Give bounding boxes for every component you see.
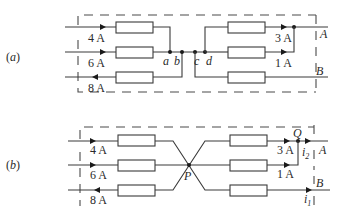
current-label: 6 A — [88, 56, 105, 70]
arrow-right-icon — [281, 49, 287, 55]
resistor — [228, 72, 265, 83]
current-label: 3 A — [275, 31, 292, 45]
resistor — [118, 160, 155, 171]
diagram-a-label: (a) — [6, 50, 20, 64]
diagram-a: (a) — [6, 15, 328, 95]
current-label: 6 A — [90, 168, 107, 182]
diagram-b-label: (b) — [6, 158, 20, 172]
resistor — [230, 135, 267, 146]
terminal-label-A: A — [319, 27, 328, 41]
current-label: 1 A — [275, 56, 292, 70]
arrow-right-icon — [281, 24, 287, 30]
resistor — [230, 160, 267, 171]
terminal-label-B: B — [316, 64, 324, 78]
boundary-top — [80, 127, 314, 139]
node-label-b: b — [174, 54, 180, 68]
current-label: 1 A — [277, 167, 294, 181]
current-label-i2: i2 — [302, 145, 309, 161]
current-label-i1: i1 — [304, 192, 311, 206]
resistor — [116, 22, 153, 33]
resistor — [228, 47, 265, 58]
arrow-right-icon — [100, 24, 106, 30]
diagram-b: (b) 4 A 6 A 8 A 3 A 1 — [6, 125, 330, 206]
resistor — [228, 22, 265, 33]
boundary-top — [78, 15, 316, 25]
terminal-label-A: A — [318, 143, 327, 157]
arrow-left-icon — [92, 74, 98, 80]
arrow-right-icon — [305, 138, 311, 144]
terminal-label-B: B — [316, 176, 324, 190]
node-b — [180, 50, 184, 54]
resistor — [118, 135, 155, 146]
node-label-a: a — [163, 54, 169, 68]
current-label: 3 A — [277, 143, 294, 157]
node-label-c: c — [194, 54, 200, 68]
node-label-Q: Q — [293, 126, 302, 140]
current-label: 8 A — [88, 81, 105, 95]
resistor — [116, 47, 153, 58]
node-P — [187, 163, 191, 167]
node-label-P: P — [183, 169, 192, 183]
current-label: 8 A — [90, 193, 107, 206]
node-label-d: d — [206, 54, 213, 68]
arrow-right-icon — [100, 49, 106, 55]
circuit-diagram: (a) — [0, 0, 340, 206]
resistor — [230, 185, 267, 196]
current-label: 4 A — [90, 143, 107, 157]
current-label: 4 A — [88, 31, 105, 45]
resistor — [118, 185, 155, 196]
resistor — [116, 72, 153, 83]
